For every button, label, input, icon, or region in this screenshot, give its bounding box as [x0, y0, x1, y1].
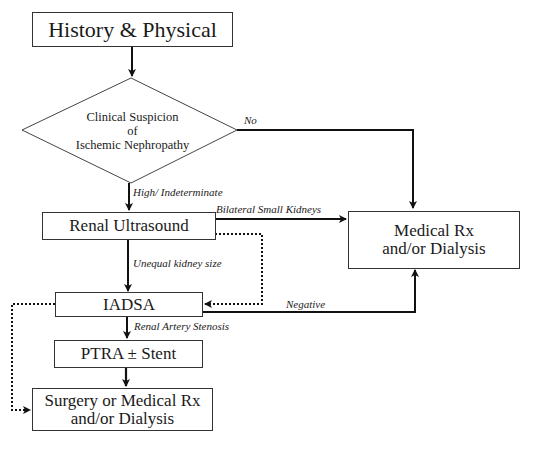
surgery-node: Surgery or Medical Rx and/or Dialysis: [32, 388, 213, 431]
history-physical-node: History & Physical: [32, 12, 233, 47]
history-physical-label: History & Physical: [48, 18, 217, 41]
ptra-stent-label: PTRA ± Stent: [81, 345, 176, 363]
decision-line-3: Ischemic Nephropathy: [50, 139, 215, 153]
decision-line-2: of: [50, 125, 215, 139]
edge-label-no: No: [244, 114, 257, 126]
ptra-stent-node: PTRA ± Stent: [54, 340, 203, 368]
decision-line-1: Clinical Suspicion: [50, 111, 215, 125]
medical-line-1: Medical Rx: [394, 222, 474, 240]
renal-ultrasound-label: Renal Ultrasound: [69, 217, 188, 235]
iadsa-node: IADSA: [55, 292, 203, 317]
edge-label-renal-artery-stenosis: Renal Artery Stenosis: [134, 320, 229, 332]
decision-text: Clinical Suspicion of Ischemic Nephropat…: [50, 111, 215, 152]
iadsa-label: IADSA: [103, 296, 155, 314]
edge-label-unequal-kidney-size: Unequal kidney size: [133, 257, 222, 269]
medical-line-2: and/or Dialysis: [382, 240, 485, 258]
renal-ultrasound-node: Renal Ultrasound: [42, 212, 216, 240]
edge-label-bilateral-small-kidneys: Bilateral Small Kidneys: [216, 203, 321, 215]
edge-label-negative: Negative: [286, 298, 325, 310]
medical-rx-node: Medical Rx and/or Dialysis: [348, 211, 520, 269]
edge-label-high-indeterminate: High/ Indeterminate: [133, 186, 223, 198]
surgery-line-2: and/or Dialysis: [71, 410, 174, 428]
surgery-line-1: Surgery or Medical Rx: [45, 392, 201, 410]
